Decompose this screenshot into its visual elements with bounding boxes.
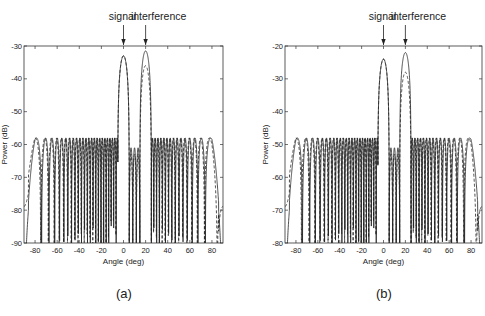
x-tick-label: 60 <box>186 246 194 255</box>
y-tick-label: -40 <box>272 107 283 116</box>
chart-panel-b: -80-60-40-20020406080-20-30-40-50-60-70-… <box>245 0 485 316</box>
down-arrow-icon <box>381 25 385 45</box>
panel-label-a: (a) <box>116 286 132 301</box>
x-axis-label: Angle (deg) <box>103 257 145 266</box>
power-angle-chart-a: -80-60-40-20020406080-30-40-50-60-70-80-… <box>0 0 245 270</box>
interference-annotation: interference <box>391 10 447 22</box>
x-axis-label: Angle (deg) <box>363 257 405 266</box>
x-tick-label: 0 <box>381 246 385 255</box>
power-angle-chart-b: -80-60-40-20020406080-20-30-40-50-60-70-… <box>245 0 485 270</box>
y-axis-label: Power (dB) <box>0 124 9 164</box>
y-tick-label: -30 <box>272 74 283 83</box>
x-tick-label: -20 <box>356 246 367 255</box>
x-tick-label: -80 <box>291 246 302 255</box>
y-tick-label: -70 <box>272 206 283 215</box>
x-tick-label: 0 <box>121 246 125 255</box>
x-tick-label: 80 <box>208 246 216 255</box>
panel-label-b: (b) <box>376 286 392 301</box>
x-tick-label: -60 <box>312 246 323 255</box>
y-tick-label: -20 <box>272 42 283 51</box>
x-tick-label: 60 <box>445 246 453 255</box>
chart-panel-a: -80-60-40-20020406080-30-40-50-60-70-80-… <box>0 0 245 316</box>
y-tick-label: -60 <box>272 173 283 182</box>
series-solid-line <box>24 51 223 259</box>
x-tick-label: 40 <box>164 246 172 255</box>
x-tick-label: -80 <box>30 246 41 255</box>
y-tick-label: -80 <box>272 239 283 248</box>
down-arrow-icon <box>121 25 125 45</box>
y-tick-label: -60 <box>11 140 22 149</box>
y-tick-label: -30 <box>11 42 22 51</box>
down-arrow-icon <box>143 25 147 45</box>
interference-annotation: interference <box>131 10 187 22</box>
y-tick-label: -50 <box>11 107 22 116</box>
y-tick-label: -40 <box>11 74 22 83</box>
x-tick-label: 40 <box>423 246 431 255</box>
x-tick-label: 20 <box>141 246 149 255</box>
x-tick-label: 20 <box>401 246 409 255</box>
y-tick-label: -70 <box>11 173 22 182</box>
y-tick-label: -90 <box>11 239 22 248</box>
x-tick-label: 80 <box>467 246 475 255</box>
y-tick-label: -50 <box>272 140 283 149</box>
x-tick-label: -60 <box>52 246 63 255</box>
y-axis-label: Power (dB) <box>261 124 270 164</box>
x-tick-label: -40 <box>74 246 85 255</box>
y-tick-label: -80 <box>11 206 22 215</box>
down-arrow-icon <box>403 25 407 45</box>
x-tick-label: -40 <box>334 246 345 255</box>
x-tick-label: -20 <box>96 246 107 255</box>
